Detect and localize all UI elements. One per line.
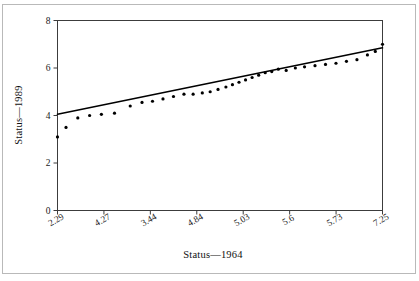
plot-frame <box>58 21 383 211</box>
data-point <box>294 66 297 69</box>
y-axis-ticks: 02468 <box>46 16 58 216</box>
data-point <box>277 68 280 71</box>
y-tick-label: 0 <box>46 206 51 216</box>
data-point <box>209 90 212 93</box>
data-point <box>182 93 185 96</box>
x-tick-label: 5.03 <box>232 211 251 228</box>
x-tick-label: 7.25 <box>371 211 390 228</box>
data-point <box>64 126 67 129</box>
x-axis-title: Status—1964 <box>183 249 243 260</box>
x-tick-label: 4.27 <box>93 211 112 228</box>
data-point <box>224 85 227 88</box>
data-point <box>381 43 384 46</box>
data-point <box>201 91 204 94</box>
chart-figure: 02468 2.294.273.444.845.035.65.737.25 St… <box>0 0 419 281</box>
data-point <box>237 81 240 84</box>
data-point <box>100 113 103 116</box>
data-point <box>366 53 369 56</box>
data-point <box>140 101 143 104</box>
data-point <box>192 93 195 96</box>
x-tick-label: 5.6 <box>281 212 296 227</box>
data-point <box>345 60 348 63</box>
y-tick-label: 2 <box>46 158 51 168</box>
data-point <box>231 83 234 86</box>
data-point <box>374 50 377 53</box>
y-tick-label: 8 <box>46 16 51 26</box>
data-point <box>129 104 132 107</box>
y-tick-label: 4 <box>46 111 51 121</box>
data-point <box>151 100 154 103</box>
x-axis-ticks: 2.294.273.444.845.035.65.737.25 <box>46 211 390 229</box>
data-point <box>303 65 306 68</box>
data-point <box>172 95 175 98</box>
data-point <box>285 69 288 72</box>
regression-line <box>58 48 383 115</box>
data-point <box>76 116 79 119</box>
y-tick-label: 6 <box>46 63 51 73</box>
data-point <box>334 62 337 65</box>
data-point <box>56 135 59 138</box>
x-tick-label: 3.44 <box>139 211 158 228</box>
data-point <box>113 112 116 115</box>
data-point <box>244 78 247 81</box>
x-tick-label: 5.73 <box>325 211 344 228</box>
data-point <box>251 76 254 79</box>
data-point <box>324 63 327 66</box>
data-point <box>257 74 260 77</box>
data-point <box>216 88 219 91</box>
data-point <box>88 114 91 117</box>
data-point <box>313 64 316 67</box>
scatter-plot: 02468 2.294.273.444.845.035.65.737.25 St… <box>0 0 419 281</box>
x-tick-label: 4.84 <box>186 211 205 228</box>
y-axis-title: Status—1989 <box>13 85 24 144</box>
data-point <box>270 70 273 73</box>
data-point <box>161 97 164 100</box>
data-point <box>264 71 267 74</box>
data-point <box>355 58 358 61</box>
